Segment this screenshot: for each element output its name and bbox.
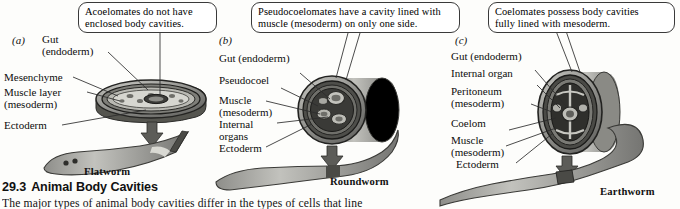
label-internal-organs-roundworm-line2: organs bbox=[219, 130, 253, 142]
label-muscle-roundworm: Muscle (mesoderm) bbox=[219, 94, 272, 119]
label-muscle-layer-flatworm-line2: (mesoderm) bbox=[4, 98, 61, 110]
organism-name-roundworm: Roundworm bbox=[330, 176, 389, 187]
label-gut-flatworm-line1: Gut bbox=[42, 33, 93, 45]
label-mesenchyme-flatworm-line1: Mesenchyme bbox=[4, 71, 63, 83]
label-muscle-earthworm: Muscle (mesoderm) bbox=[451, 134, 504, 159]
label-gut-roundworm-line1: Gut (endoderm) bbox=[219, 52, 290, 64]
panel-letter-b: (b) bbox=[219, 34, 232, 46]
label-internal-organs-roundworm: Internal organs bbox=[219, 118, 253, 143]
label-coelom-earthworm-line1: Coelom bbox=[451, 117, 486, 129]
figure-caption-number: 29.3 bbox=[2, 180, 26, 194]
figure-caption-body: The major types of animal body cavities … bbox=[2, 197, 678, 209]
organism-name-flatworm: Flatworm bbox=[84, 166, 130, 177]
figure-caption-heading: Animal Body Cavities bbox=[31, 180, 158, 194]
label-mesenchyme-flatworm: Mesenchyme bbox=[4, 71, 63, 83]
callout-coelomate-line2: fully lined with mesoderm. bbox=[495, 18, 669, 30]
label-gut-flatworm-line2: (endoderm) bbox=[42, 45, 93, 57]
label-ectoderm-earthworm-line1: Ectoderm bbox=[456, 158, 499, 170]
label-gut-flatworm: Gut (endoderm) bbox=[42, 33, 93, 58]
flatworm-artwork bbox=[44, 80, 206, 175]
label-gut-earthworm-line1: Gut (endoderm) bbox=[451, 50, 522, 62]
label-pseudocoel-roundworm: Pseudocoel bbox=[219, 74, 269, 86]
label-peritoneum-earthworm: Peritoneum (mesoderm) bbox=[451, 85, 504, 110]
callout-coelomate: Coelomates possess body cavities fully l… bbox=[488, 2, 675, 33]
label-ectoderm-roundworm: Ectoderm bbox=[219, 142, 262, 154]
label-muscle-earthworm-line2: (mesoderm) bbox=[451, 146, 504, 158]
figure-animal-body-cavities: (a) Acoelomates do not have enclosed bod… bbox=[0, 0, 680, 209]
callout-coelomate-line1: Coelomates possess body cavities bbox=[495, 6, 669, 18]
label-ectoderm-flatworm: Ectoderm bbox=[4, 119, 47, 131]
callout-acoelomate-line2: enclosed body cavities. bbox=[85, 18, 211, 30]
panel-letter-c: (c) bbox=[455, 34, 467, 46]
label-ectoderm-flatworm-line1: Ectoderm bbox=[4, 119, 47, 131]
label-muscle-earthworm-line1: Muscle bbox=[451, 134, 504, 146]
label-peritoneum-earthworm-line1: Peritoneum bbox=[451, 85, 504, 97]
label-gut-roundworm: Gut (endoderm) bbox=[219, 52, 290, 64]
label-muscle-roundworm-line2: (mesoderm) bbox=[219, 106, 272, 118]
figure-caption-title: 29.3Animal Body Cavities bbox=[2, 180, 158, 194]
label-ectoderm-earthworm: Ectoderm bbox=[456, 158, 499, 170]
label-muscle-layer-flatworm: Muscle layer (mesoderm) bbox=[4, 86, 61, 111]
label-pseudocoel-roundworm-line1: Pseudocoel bbox=[219, 74, 269, 86]
callout-acoelomate: Acoelomates do not have enclosed body ca… bbox=[78, 2, 217, 33]
organism-name-earthworm: Earthworm bbox=[600, 186, 655, 197]
callout-pseudocoelomate-line2: muscle (mesoderm) on only one side. bbox=[258, 18, 454, 30]
label-ectoderm-roundworm-line1: Ectoderm bbox=[219, 142, 262, 154]
callout-pseudocoelomate-line1: Pseudocoelomates have a cavity lined wit… bbox=[258, 6, 454, 18]
panel-letter-a: (a) bbox=[12, 34, 25, 46]
label-internal-organs-roundworm-line1: Internal bbox=[219, 118, 253, 130]
label-coelom-earthworm: Coelom bbox=[451, 117, 486, 129]
callout-pseudocoelomate: Pseudocoelomates have a cavity lined wit… bbox=[251, 2, 460, 33]
callout-acoelomate-line1: Acoelomates do not have bbox=[85, 6, 211, 18]
label-internal-organ-earthworm-line1: Internal organ bbox=[451, 67, 513, 79]
label-peritoneum-earthworm-line2: (mesoderm) bbox=[451, 97, 504, 109]
label-gut-earthworm: Gut (endoderm) bbox=[451, 50, 522, 62]
label-muscle-layer-flatworm-line1: Muscle layer bbox=[4, 86, 61, 98]
label-internal-organ-earthworm: Internal organ bbox=[451, 67, 513, 79]
label-muscle-roundworm-line1: Muscle bbox=[219, 94, 272, 106]
